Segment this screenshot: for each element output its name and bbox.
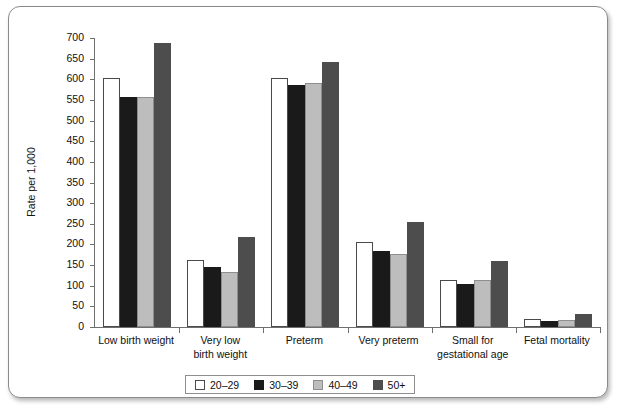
legend-item-label: 20–29 <box>210 379 239 391</box>
y-tick-label: 350 <box>66 176 84 189</box>
bar <box>407 222 424 327</box>
legend-item[interactable]: 30–39 <box>254 379 298 391</box>
y-tick-label: 300 <box>66 196 84 209</box>
x-axis-label: Very lowbirth weight <box>178 334 262 361</box>
x-axis-label-line: Low birth weight <box>94 334 178 348</box>
bar-group-bars <box>179 38 263 327</box>
bar <box>575 314 592 327</box>
bar <box>137 97 154 327</box>
legend-item[interactable]: 20–29 <box>195 379 239 391</box>
bar <box>524 319 541 327</box>
plot-axes: 7006506005505004504003503002502001501005… <box>94 38 600 328</box>
y-tick-label: 250 <box>66 217 84 230</box>
bar <box>221 272 238 327</box>
x-axis-label: Very preterm <box>347 334 431 348</box>
bar-group <box>179 38 263 327</box>
group-separator-tick <box>348 327 349 333</box>
group-separator-tick <box>600 327 601 333</box>
group-separator-tick <box>179 327 180 333</box>
y-tick-mark <box>90 327 95 328</box>
dark-gray-swatch <box>373 380 383 390</box>
bar <box>204 267 221 327</box>
legend-item[interactable]: 50+ <box>373 379 406 391</box>
bar <box>288 85 305 327</box>
bar <box>390 254 407 327</box>
x-axis-label-line: Preterm <box>262 334 346 348</box>
legend-item-label: 50+ <box>388 379 406 391</box>
legend-item[interactable]: 40–49 <box>313 379 357 391</box>
bar-group <box>432 38 516 327</box>
chart-legend: 20–2930–3940–4950+ <box>185 375 415 394</box>
bar <box>373 251 390 327</box>
bar <box>558 320 575 327</box>
bar <box>154 43 171 327</box>
chart-figure: Rate per 1,000 7006506005505004504003503… <box>8 6 608 398</box>
legend-item-label: 40–49 <box>328 379 357 391</box>
y-tick-label: 50 <box>72 299 84 312</box>
y-tick-label: 700 <box>66 31 84 44</box>
x-axis-label-line: Fetal mortality <box>515 334 599 348</box>
bar <box>187 260 204 327</box>
bar-group-bars <box>348 38 432 327</box>
bar <box>271 78 288 327</box>
bar <box>356 242 373 327</box>
y-tick-label: 500 <box>66 114 84 127</box>
group-separator-tick <box>432 327 433 333</box>
bar-group-bars <box>432 38 516 327</box>
x-axis-category-labels: Low birth weightVery lowbirth weightPret… <box>94 334 599 374</box>
bar <box>440 280 457 327</box>
y-axis-title: Rate per 1,000 <box>23 37 39 327</box>
black-swatch <box>254 380 264 390</box>
y-tick-label: 100 <box>66 279 84 292</box>
x-axis-label: Fetal mortality <box>515 334 599 348</box>
bar-group-bars <box>516 38 600 327</box>
bar-group-bars <box>263 38 347 327</box>
x-axis-label: Preterm <box>262 334 346 348</box>
y-tick-label: 600 <box>66 72 84 85</box>
x-axis-label-line: birth weight <box>178 348 262 362</box>
group-separator-tick <box>516 327 517 333</box>
bar-group <box>348 38 432 327</box>
light-gray-swatch <box>313 380 323 390</box>
bar <box>322 62 339 327</box>
bar <box>457 284 474 327</box>
legend-item-label: 30–39 <box>269 379 298 391</box>
x-axis-label: Low birth weight <box>94 334 178 348</box>
x-axis-label-line: Very preterm <box>347 334 431 348</box>
bar <box>305 83 322 327</box>
y-tick-label: 400 <box>66 155 84 168</box>
bar <box>474 280 491 327</box>
bar <box>541 321 558 327</box>
y-tick-label: 150 <box>66 258 84 271</box>
bar <box>491 261 508 327</box>
bar-group <box>263 38 347 327</box>
x-axis-label: Small forgestational age <box>431 334 515 361</box>
y-tick-label: 650 <box>66 52 84 65</box>
y-tick-label: 0 <box>78 320 84 333</box>
plot-area: 7006506005505004504003503002502001501005… <box>94 31 599 327</box>
bar-group <box>95 38 179 327</box>
white-swatch <box>195 380 205 390</box>
bar <box>238 237 255 327</box>
x-axis-label-line: Small for <box>431 334 515 348</box>
bar <box>120 97 137 327</box>
x-axis-label-line: Very low <box>178 334 262 348</box>
y-tick-label: 200 <box>66 237 84 250</box>
bar <box>103 78 120 327</box>
bar-group-bars <box>95 38 179 327</box>
x-axis-label-line: gestational age <box>431 348 515 362</box>
bar-group <box>516 38 600 327</box>
group-separator-tick <box>263 327 264 333</box>
y-tick-label: 450 <box>66 134 84 147</box>
y-tick-label: 550 <box>66 93 84 106</box>
